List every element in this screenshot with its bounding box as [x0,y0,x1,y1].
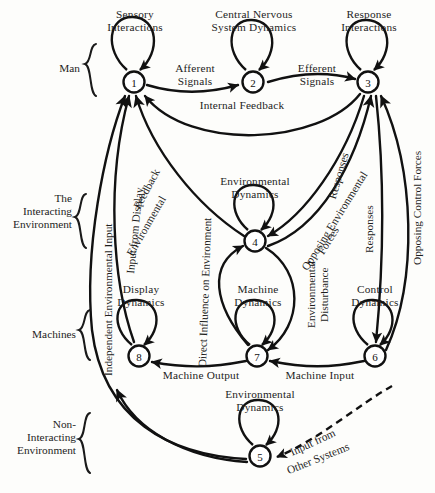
node-8[interactable]: 8 [129,346,150,367]
afferent-line-2: Signals [159,75,231,88]
edge-opposing-control-forces [381,96,408,350]
group-label-ie-line-3: Environment [0,218,72,231]
node-8-title: Display Dynamics [104,283,178,308]
node-1-title: Sensory Interactions [96,8,174,33]
node-3-title: Response Interactions [330,8,408,33]
edge-label-afferent-signals: Afferent Signals [159,62,231,87]
node-5-number: 5 [257,451,263,463]
brace-man [85,44,96,96]
node-1[interactable]: 1 [124,72,145,93]
diagram-canvas: 1 2 3 4 5 6 7 8 [0,0,435,493]
node-3-title-line-1: Response [330,8,408,21]
node-5[interactable]: 5 [250,446,271,467]
iei-text: Independent Environmental Input [102,224,114,376]
node-2[interactable]: 2 [243,72,264,93]
internal-feedback-line-1: Internal Feedback [185,99,299,112]
node-6-title: Control Dynamics [338,283,412,308]
node-3-number: 3 [365,77,371,89]
group-label-ie-line-1: The [0,192,72,205]
node-8-number: 8 [136,351,142,363]
node-1-title-line-2: Interactions [96,21,174,34]
ed-line-1: Environmental [305,261,317,328]
node-5-title-line-2: Dynamics [200,401,320,414]
edge-machine-input [270,361,364,366]
group-label-machines-line-1: Machines [6,328,76,341]
node-6-title-line-2: Dynamics [338,296,412,309]
machine-input-line-1: Machine Input [272,369,368,382]
node-4-title: Environmental Dynamics [195,175,315,200]
edge-label-internal-feedback: Internal Feedback [185,99,299,112]
node-2-number: 2 [250,77,256,89]
edge-label-environmental-disturbance-line-1: Environmental [305,261,318,328]
node-4-number: 4 [252,236,258,248]
brace-machines [79,310,90,360]
node-3-title-line-2: Interactions [330,21,408,34]
machine-output-line-1: Machine Output [150,369,252,382]
node-5-title-line-1: Environmental [200,388,320,401]
node-7-title-line-1: Machine [221,283,295,296]
group-label-interacting-environment: The Interacting Environment [0,192,72,231]
edge-label-independent-environmental-input: Independent Environmental Input [102,224,115,376]
node-6-title-line-1: Control [338,283,412,296]
node-7-number: 7 [254,351,260,363]
ed-line-2: Disturbance [318,267,330,322]
group-label-nie-line-1: Non- [0,418,76,431]
efferent-line-2: Signals [281,75,353,88]
responses-control-text: Responses [363,205,375,253]
afferent-line-1: Afferent [159,62,231,75]
edge-label-responses-to-control: Responses [363,205,376,253]
node-8-title-line-2: Dynamics [104,296,178,309]
edge-label-opposing-control-forces: Opposing Control Forces [411,151,424,265]
brace-non-interacting-environment [79,413,90,473]
node-8-title-line-1: Display [104,283,178,296]
edge-label-efferent-signals: Efferent Signals [281,62,353,87]
brace-interacting-environment [75,194,86,248]
node-6-number: 6 [372,351,378,363]
group-label-non-interacting-environment: Non- Interacting Environment [0,418,76,457]
node-5-title: Environmental Dynamics [200,388,320,413]
node-2-title-line-2: System Dynamics [199,21,309,34]
edge-label-machine-output: Machine Output [150,369,252,382]
node-2-title-line-1: Central Nervous [199,8,309,21]
node-4[interactable]: 4 [245,231,266,252]
edge-label-environmental-disturbance-line-2: Disturbance [318,267,331,322]
node-3[interactable]: 3 [358,72,379,93]
ocf-text: Opposing Control Forces [411,151,423,265]
node-2-title: Central Nervous System Dynamics [199,8,309,33]
node-7-title-line-2: Dynamics [221,296,295,309]
group-label-nie-line-2: Interacting [0,431,76,444]
group-label-nie-line-3: Environment [0,444,76,457]
node-4-title-line-2: Dynamics [195,188,315,201]
efferent-line-1: Efferent [281,62,353,75]
node-4-title-line-1: Environmental [195,175,315,188]
edge-responses-to-environment [268,96,364,236]
node-7[interactable]: 7 [247,346,268,367]
node-1-number: 1 [131,77,137,89]
node-1-title-line-1: Sensory [96,8,174,21]
group-label-ie-line-2: Interacting [0,205,72,218]
node-7-title: Machine Dynamics [221,283,295,308]
group-label-machines: Machines [6,328,76,341]
edge-label-machine-input: Machine Input [272,369,368,382]
node-6[interactable]: 6 [365,346,386,367]
group-label-man: Man [14,62,80,75]
group-label-man-line-1: Man [14,62,80,75]
